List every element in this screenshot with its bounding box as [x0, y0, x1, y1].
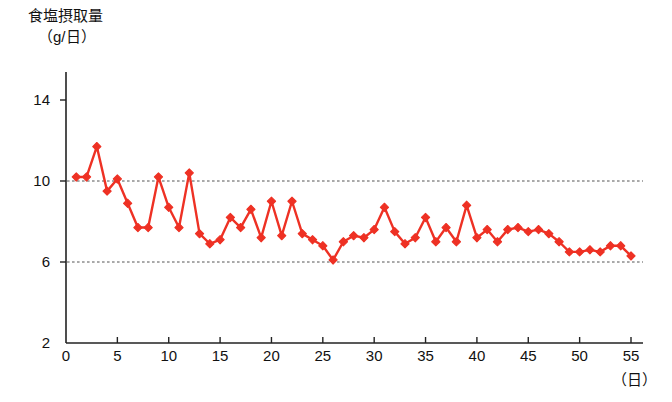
data-point — [514, 223, 522, 231]
x-tick-label-40: 40 — [462, 347, 492, 364]
x-tick-label-45: 45 — [513, 347, 543, 364]
data-point — [421, 213, 429, 221]
data-point-markers — [72, 142, 635, 264]
data-point — [257, 234, 265, 242]
data-point — [165, 203, 173, 211]
salt-intake-line-chart: 食塩摂取量 （g/日） （日） 261014 05101520253035404… — [0, 0, 672, 402]
data-point — [586, 246, 594, 254]
data-point — [144, 223, 152, 231]
data-point — [134, 223, 142, 231]
data-point — [175, 223, 183, 231]
data-point — [380, 203, 388, 211]
data-point — [278, 232, 286, 240]
x-tick-label-25: 25 — [308, 347, 338, 364]
x-tick-label-5: 5 — [102, 347, 132, 364]
x-tick-label-35: 35 — [411, 347, 441, 364]
data-point — [267, 197, 275, 205]
x-tick-label-15: 15 — [205, 347, 235, 364]
x-tick-label-10: 10 — [154, 347, 184, 364]
data-point — [154, 173, 162, 181]
data-point — [185, 169, 193, 177]
data-point — [288, 197, 296, 205]
x-tick-label-0: 0 — [51, 347, 81, 364]
x-tick-label-20: 20 — [256, 347, 286, 364]
axis-ticks-group — [60, 100, 631, 343]
data-series-line — [76, 147, 631, 260]
data-point — [124, 199, 132, 207]
gridlines-group — [67, 181, 643, 262]
data-point — [576, 248, 584, 256]
series-polyline — [76, 147, 631, 260]
data-point — [534, 226, 542, 234]
data-point — [72, 173, 80, 181]
data-point — [216, 236, 224, 244]
x-tick-label-30: 30 — [359, 347, 389, 364]
y-tick-label-10: 10 — [20, 172, 50, 189]
data-point — [524, 228, 532, 236]
x-tick-label-55: 55 — [616, 347, 646, 364]
y-tick-label-6: 6 — [20, 253, 50, 270]
data-point — [463, 201, 471, 209]
y-tick-label-2: 2 — [20, 334, 50, 351]
data-point — [93, 142, 101, 150]
data-point — [82, 173, 90, 181]
plot-area — [0, 0, 672, 402]
y-tick-label-14: 14 — [20, 91, 50, 108]
x-tick-label-50: 50 — [565, 347, 595, 364]
